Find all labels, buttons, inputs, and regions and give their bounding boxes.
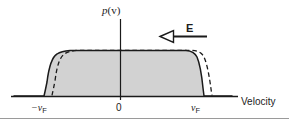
tick-label-origin: 0	[116, 103, 122, 113]
electric-field-label: E	[186, 23, 193, 34]
tick-label-negative-fermi-symbol: −v	[31, 102, 42, 113]
velocity-distribution-figure: p(v) E −vF 0 vF Velocity	[0, 0, 289, 126]
bottom-divider	[0, 118, 289, 119]
field-arrow-head-icon	[160, 31, 174, 43]
y-axis-title: p(v)	[102, 5, 120, 16]
tick-label-positive-fermi-velocity: vF	[191, 103, 200, 115]
tick-label-positive-fermi-subscript: F	[195, 106, 200, 115]
tick-label-negative-fermi-velocity: −vF	[31, 103, 47, 115]
tick-label-negative-fermi-subscript: F	[42, 106, 47, 115]
equilibrium-distribution-fill	[44, 51, 204, 97]
x-axis-title: Velocity	[241, 97, 275, 107]
y-axis-title-argument: (v)	[108, 4, 121, 16]
